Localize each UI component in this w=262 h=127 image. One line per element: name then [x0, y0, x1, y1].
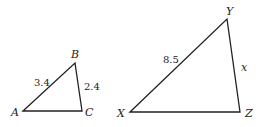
similar-triangles-diagram: A B C 3.4 2.4 X Y Z 8.5 x — [0, 0, 262, 127]
triangle-xyz — [130, 19, 240, 112]
triangle-abc — [23, 63, 82, 111]
side-label-ab: 3.4 — [34, 77, 50, 88]
vertex-label-a: A — [10, 106, 19, 119]
side-label-xy: 8.5 — [163, 54, 179, 65]
vertex-label-x: X — [116, 107, 126, 120]
vertex-label-c: C — [85, 106, 94, 119]
side-label-bc: 2.4 — [84, 81, 100, 92]
vertex-label-z: Z — [244, 107, 253, 120]
vertex-label-y: Y — [226, 5, 235, 18]
vertex-label-b: B — [70, 48, 79, 61]
side-label-yz: x — [241, 61, 248, 74]
